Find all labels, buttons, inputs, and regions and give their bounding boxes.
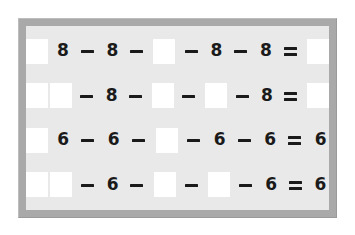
equation-row: 66666 <box>26 121 329 159</box>
digit-value: 6 <box>55 131 72 149</box>
minus-operator-icon <box>127 175 147 195</box>
answer-blank-box[interactable] <box>50 172 72 197</box>
digit-value: 8 <box>257 42 274 60</box>
answer-blank-box[interactable] <box>26 83 48 108</box>
minus-operator-icon <box>182 175 202 195</box>
token-spacer <box>98 140 105 141</box>
answer-blank-box[interactable] <box>26 172 48 197</box>
minus-operator-icon <box>78 41 98 61</box>
token-spacer <box>72 140 79 141</box>
answer-blank-box[interactable] <box>153 39 175 64</box>
digit-value: 6 <box>312 176 329 194</box>
minus-operator-icon <box>78 130 98 150</box>
token-spacer <box>178 140 185 141</box>
minus-operator-icon <box>235 130 255 150</box>
minus-operator-icon <box>78 175 98 195</box>
token-spacer <box>122 140 129 141</box>
minus-operator-icon <box>127 41 147 61</box>
minus-operator-icon <box>236 175 256 195</box>
digit-value: 8 <box>259 87 276 105</box>
equals-operator-icon <box>286 175 306 195</box>
equals-operator-icon <box>281 86 301 106</box>
minus-operator-icon <box>77 86 97 106</box>
minus-operator-icon <box>179 86 199 106</box>
equation-row: 666 <box>26 166 329 204</box>
worksheet-root: 88888866666666 <box>0 0 355 235</box>
answer-blank-box[interactable] <box>307 83 329 108</box>
digit-value: 6 <box>104 176 121 194</box>
equation-row: 8888 <box>26 32 329 70</box>
equals-operator-icon <box>285 130 305 150</box>
answer-blank-box[interactable] <box>307 39 329 64</box>
minus-operator-icon <box>129 130 149 150</box>
minus-operator-icon <box>126 86 146 106</box>
answer-blank-box[interactable] <box>152 83 174 108</box>
answer-blank-box[interactable] <box>208 172 230 197</box>
answer-blank-box[interactable] <box>205 83 227 108</box>
token-spacer <box>305 140 312 141</box>
digit-value: 6 <box>211 131 228 149</box>
token-spacer <box>279 140 286 141</box>
answer-blank-box[interactable] <box>154 172 176 197</box>
digit-value: 6 <box>105 131 122 149</box>
minus-operator-icon <box>233 86 253 106</box>
puzzle-panel: 88888866666666 <box>26 26 329 210</box>
equals-operator-icon <box>281 41 301 61</box>
minus-operator-icon <box>231 41 251 61</box>
digit-value: 6 <box>312 131 329 149</box>
minus-operator-icon <box>182 41 202 61</box>
token-spacer <box>149 140 156 141</box>
token-spacer <box>255 140 262 141</box>
token-spacer <box>228 140 235 141</box>
answer-blank-box[interactable] <box>26 128 48 153</box>
minus-operator-icon <box>184 130 204 150</box>
puzzle-frame-border: 88888866666666 <box>18 18 337 218</box>
answer-blank-box[interactable] <box>156 128 178 153</box>
digit-value: 8 <box>103 87 120 105</box>
answer-blank-box[interactable] <box>50 83 72 108</box>
digit-value: 8 <box>54 42 71 60</box>
token-spacer <box>48 140 55 141</box>
digit-value: 6 <box>262 131 279 149</box>
digit-value: 8 <box>208 42 225 60</box>
answer-blank-box[interactable] <box>26 39 48 64</box>
equation-row: 88 <box>26 77 329 115</box>
digit-value: 8 <box>104 42 121 60</box>
token-spacer <box>204 140 211 141</box>
digit-value: 6 <box>263 176 280 194</box>
